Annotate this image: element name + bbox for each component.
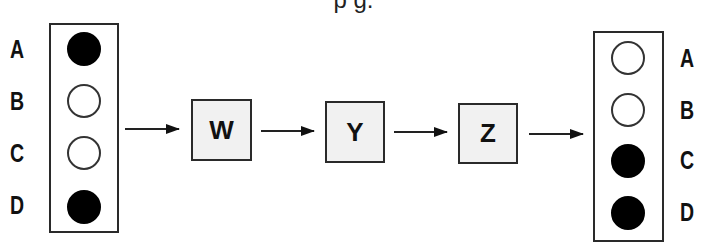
output-dot-c-filled [611,144,645,178]
output-label-c: C [680,148,694,173]
output-dot-b-empty [611,93,645,127]
output-label-d: D [680,200,694,225]
output-dot-a-empty [611,41,645,75]
output-panel [593,31,664,242]
output-label-a: A [680,46,694,71]
output-label-b: B [680,98,694,123]
output-dot-d-filled [611,196,645,230]
